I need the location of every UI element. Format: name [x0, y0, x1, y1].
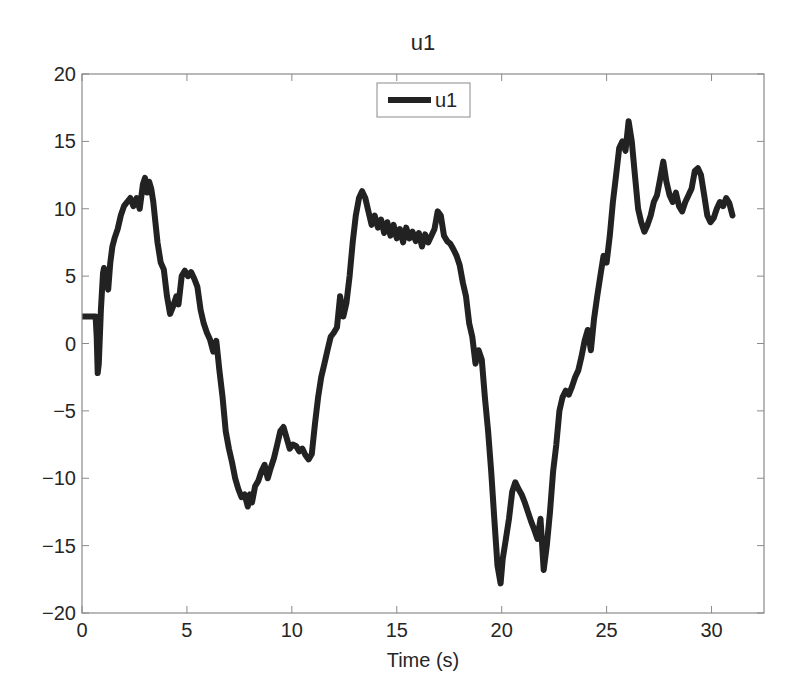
y-tick-label: −15: [42, 535, 76, 557]
legend: u1: [377, 83, 470, 117]
chart-figure: u1 051015202530 −20−15−10−505101520 u1 T…: [0, 0, 808, 699]
y-tick-label: 10: [54, 198, 76, 220]
y-tick-label: 15: [54, 130, 76, 152]
y-tick-label: 0: [65, 333, 76, 355]
x-tick-label: 0: [76, 619, 87, 641]
y-tick-label: 5: [65, 265, 76, 287]
x-tick-label: 10: [281, 619, 303, 641]
x-axis-label: Time (s): [387, 649, 460, 671]
legend-label-u1: u1: [435, 89, 457, 111]
chart-title: u1: [411, 30, 435, 55]
y-tick-label: −10: [42, 467, 76, 489]
y-tick-label: −20: [42, 602, 76, 624]
x-tick-label: 20: [491, 619, 513, 641]
plot-background: [82, 74, 764, 613]
x-tick-label: 30: [700, 619, 722, 641]
y-tick-label: −5: [53, 400, 76, 422]
x-tick-label: 5: [181, 619, 192, 641]
x-tick-label: 25: [595, 619, 617, 641]
plot-area: 051015202530 −20−15−10−505101520: [42, 63, 764, 641]
x-tick-label: 15: [386, 619, 408, 641]
y-tick-label: 20: [54, 63, 76, 85]
